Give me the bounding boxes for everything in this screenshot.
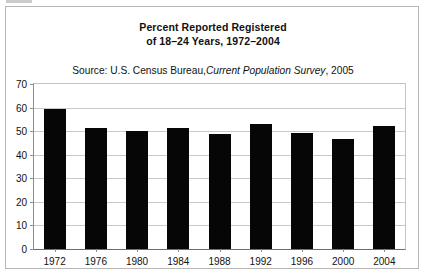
bar [209,134,231,249]
bar [167,128,189,249]
x-axis-tick [137,249,138,252]
bar [44,109,66,249]
figure-container: Percent Reported Registered of 18–24 Yea… [5,6,419,269]
x-axis-label: 2004 [373,256,395,267]
y-axis-tick [30,108,34,109]
bar [291,133,313,249]
y-axis-label: 30 [16,173,27,184]
y-axis-tick [30,131,34,132]
y-axis-label: 60 [16,102,27,113]
gridline [34,108,405,109]
x-axis-label: 1976 [85,256,107,267]
x-axis-label: 1980 [126,256,148,267]
plot-area: 010203040506070 197219761980198419881992… [6,7,420,270]
y-axis-tick [30,202,34,203]
x-axis-tick [302,249,303,252]
y-axis-tick [30,155,34,156]
bar [126,131,148,249]
x-axis-tick [261,249,262,252]
y-axis-label: 50 [16,126,27,137]
y-axis-label: 10 [16,220,27,231]
x-axis-tick [343,249,344,252]
y-axis-tick [30,178,34,179]
bar [332,139,354,249]
y-axis-label: 20 [16,196,27,207]
x-axis-label: 1988 [208,256,230,267]
x-axis-tick [220,249,221,252]
x-axis-label: 1984 [167,256,189,267]
x-axis-label: 2000 [332,256,354,267]
y-axis-tick [30,249,34,250]
x-axis-tick [384,249,385,252]
y-axis-label: 40 [16,149,27,160]
y-axis-label: 0 [21,244,27,255]
y-axis-tick [30,225,34,226]
bar [85,128,107,249]
x-axis-label: 1996 [291,256,313,267]
x-axis-label: 1972 [43,256,65,267]
cut-off-caption-remnant [6,0,32,3]
plot-frame: 010203040506070 197219761980198419881992… [33,83,406,250]
x-axis-tick [55,249,56,252]
y-axis-label: 70 [16,79,27,90]
y-axis-tick [30,84,34,85]
x-axis-label: 1992 [250,256,272,267]
x-axis-tick [178,249,179,252]
bar [250,124,272,249]
bar [373,126,395,249]
x-axis-tick [96,249,97,252]
